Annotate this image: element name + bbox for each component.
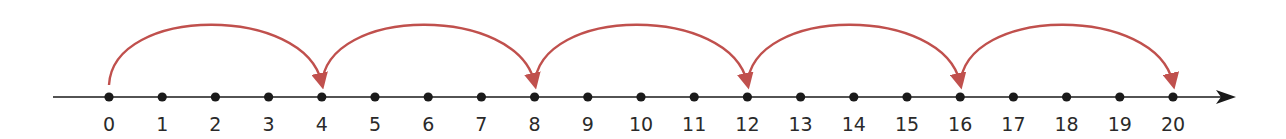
tick-label: 12 — [735, 113, 759, 135]
tick-label: 19 — [1108, 113, 1132, 135]
tick-point — [1009, 92, 1018, 101]
tick-label: 20 — [1161, 113, 1185, 135]
number-line-diagram: 01234567891011121314151617181920 — [0, 0, 1286, 139]
tick-point — [1115, 92, 1124, 101]
tick-point — [796, 92, 805, 101]
tick-label: 3 — [263, 113, 275, 135]
tick-label: 10 — [629, 113, 653, 135]
tick-point — [370, 92, 379, 101]
tick-label: 14 — [842, 113, 866, 135]
jump-arc-arrow — [322, 25, 535, 85]
tick-label: 6 — [422, 113, 434, 135]
tick-point — [1168, 92, 1177, 101]
tick-labels: 01234567891011121314151617181920 — [103, 113, 1185, 135]
tick-label: 2 — [209, 113, 221, 135]
tick-label: 0 — [103, 113, 115, 135]
jump-arc-arrow — [960, 25, 1173, 85]
jump-arc-arrow — [535, 25, 748, 85]
tick-label: 17 — [1001, 113, 1025, 135]
tick-label: 9 — [582, 113, 594, 135]
tick-point — [849, 92, 858, 101]
tick-label: 7 — [475, 113, 487, 135]
tick-points — [104, 92, 1177, 101]
tick-label: 11 — [682, 113, 706, 135]
tick-label: 15 — [895, 113, 919, 135]
tick-point — [317, 92, 326, 101]
tick-label: 1 — [156, 113, 168, 135]
jump-arc-arrow — [109, 25, 322, 85]
tick-label: 4 — [316, 113, 328, 135]
tick-point — [636, 92, 645, 101]
tick-point — [211, 92, 220, 101]
jump-arcs — [109, 25, 1173, 85]
tick-point — [743, 92, 752, 101]
tick-point — [690, 92, 699, 101]
tick-point — [158, 92, 167, 101]
tick-point — [1062, 92, 1071, 101]
tick-label: 18 — [1055, 113, 1079, 135]
tick-point — [530, 92, 539, 101]
tick-point — [583, 92, 592, 101]
tick-label: 5 — [369, 113, 381, 135]
tick-point — [902, 92, 911, 101]
tick-label: 8 — [529, 113, 541, 135]
tick-point — [104, 92, 113, 101]
tick-label: 13 — [789, 113, 813, 135]
tick-point — [477, 92, 486, 101]
tick-point — [264, 92, 273, 101]
jump-arc-arrow — [747, 25, 960, 85]
tick-point — [956, 92, 965, 101]
tick-point — [424, 92, 433, 101]
tick-label: 16 — [948, 113, 972, 135]
